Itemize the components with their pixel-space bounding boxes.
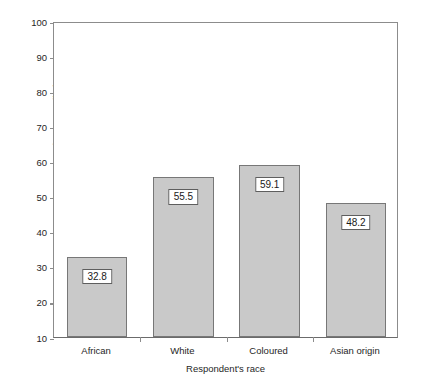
bar-value-label: 32.8 — [82, 269, 111, 285]
y-axis-tick-label: 40 — [36, 227, 47, 238]
y-axis-tick-mark — [50, 93, 54, 94]
bar: 59.1 — [239, 165, 299, 337]
y-axis-tick-mark — [50, 128, 54, 129]
y-axis-tick-label: 50 — [36, 192, 47, 203]
y-axis-tick-label: 10 — [36, 333, 47, 344]
y-axis-tick-label: 60 — [36, 157, 47, 168]
y-axis-tick-mark — [50, 268, 54, 269]
x-axis-tick-mark — [313, 337, 314, 342]
y-axis-tick-label: 70 — [36, 122, 47, 133]
bar: 55.5 — [153, 177, 213, 337]
y-axis-tick-mark — [50, 23, 54, 24]
x-axis-category-label: Coloured — [249, 345, 288, 356]
y-axis-tick-mark — [50, 163, 54, 164]
bar: 32.8 — [67, 257, 127, 337]
y-axis-tick-label: 80 — [36, 87, 47, 98]
y-axis-tick-label: 90 — [36, 52, 47, 63]
y-axis-tick-label: 30 — [36, 262, 47, 273]
bar-chart: Percentage at least somewhat reconciled … — [0, 0, 425, 387]
y-axis-tick-label: 20 — [36, 297, 47, 308]
y-axis-tick-label: 100 — [31, 17, 47, 28]
plot-area: 10203040506070809010032.855.559.148.2 — [53, 22, 398, 338]
y-axis-tick-mark — [50, 58, 54, 59]
y-axis-tick-mark — [50, 339, 54, 340]
x-axis-tick-mark — [140, 337, 141, 342]
bar: 48.2 — [326, 203, 386, 337]
x-axis-title: Respondent's race — [53, 363, 398, 374]
x-axis-category-label: White — [170, 345, 194, 356]
y-axis-tick-mark — [50, 198, 54, 199]
y-axis-tick-mark — [50, 303, 54, 304]
x-axis-category-label: Asian origin — [330, 345, 380, 356]
x-axis-category-label: African — [81, 345, 111, 356]
y-axis-tick-mark — [50, 233, 54, 234]
bar-value-label: 48.2 — [341, 215, 370, 231]
bar-value-label: 55.5 — [169, 189, 198, 205]
bar-value-label: 59.1 — [255, 177, 284, 193]
x-axis-tick-mark — [227, 337, 228, 342]
